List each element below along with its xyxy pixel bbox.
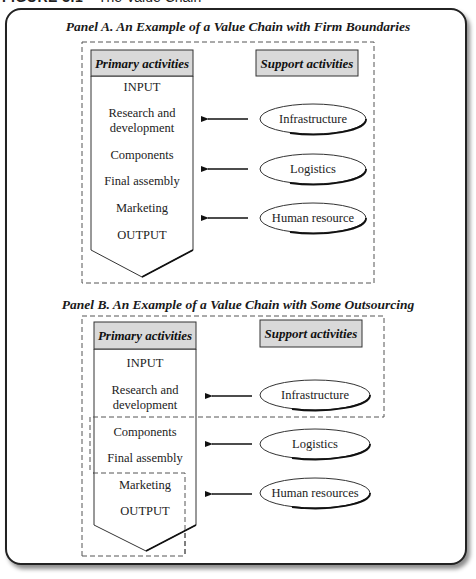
- panel-a-primary-header-label: Primary activities: [95, 56, 189, 71]
- panel-a-primary-input: INPUT: [124, 80, 161, 94]
- panel-a-human-resource-label: Human resource: [272, 211, 355, 225]
- panel-b-primary-rd-line2: development: [113, 398, 178, 412]
- panel-b-support-logistics: Logistics: [260, 429, 370, 459]
- panel-b-support-infrastructure: Infrastructure: [260, 380, 370, 410]
- panel-b-support-header-label: Support activities: [265, 326, 358, 341]
- panel-b-primary-output: OUTPUT: [120, 504, 170, 518]
- panel-a-primary-components: Components: [110, 148, 173, 162]
- panel-b-logistics-label: Logistics: [292, 437, 338, 451]
- panel-b-primary-marketing: Marketing: [119, 478, 172, 492]
- panel-a-support-logistics: Logistics: [260, 154, 366, 184]
- panel-a: Panel A. An Example of a Value Chain wit…: [66, 19, 410, 283]
- panel-b-primary-final-assembly: Final assembly: [107, 451, 183, 465]
- panel-a-primary-final-assembly: Final assembly: [104, 174, 180, 188]
- panel-a-primary-output: OUTPUT: [117, 228, 167, 242]
- panel-a-primary-rd-line2: development: [110, 121, 175, 135]
- panel-a-support-header-label: Support activities: [261, 56, 354, 71]
- panel-a-primary-rd-line1: Research and: [109, 106, 177, 120]
- panel-b-primary-components: Components: [113, 425, 176, 439]
- panel-a-primary-marketing: Marketing: [116, 201, 169, 215]
- panel-a-infrastructure-label: Infrastructure: [279, 112, 347, 126]
- panel-b-primary-header-label: Primary activities: [98, 328, 192, 343]
- panel-a-support-human-resource: Human resource: [260, 203, 366, 233]
- panel-a-logistics-label: Logistics: [290, 162, 336, 176]
- panel-b-infrastructure-label: Infrastructure: [281, 388, 349, 402]
- panel-b-support-human-resources: Human resources: [260, 478, 370, 508]
- panel-a-support-infrastructure: Infrastructure: [260, 104, 366, 134]
- panel-b-primary-input: INPUT: [127, 356, 164, 370]
- panel-b-primary-chevron: [94, 349, 196, 551]
- panel-b-primary-rd-line1: Research and: [112, 383, 180, 397]
- panel-b: Panel B. An Example of a Value Chain wit…: [62, 297, 415, 556]
- panel-b-human-resources-label: Human resources: [271, 486, 358, 500]
- value-chain-diagram: Panel A. An Example of a Value Chain wit…: [0, 0, 476, 579]
- panel-a-title: Panel A. An Example of a Value Chain wit…: [66, 19, 410, 34]
- panel-b-title: Panel B. An Example of a Value Chain wit…: [62, 297, 415, 312]
